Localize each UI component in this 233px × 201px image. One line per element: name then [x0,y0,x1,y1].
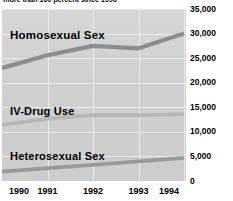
y-axis-tick-label: 10,000 [190,127,216,136]
x-axis-tick-label: 1992 [83,186,103,196]
y-axis-tick-label: 30,000 [190,29,216,38]
y-axis-tick-label: 0 [190,177,195,186]
figure-caption: more than 100 percent since 1990 [3,0,193,4]
series-label-iv-drug-use: IV-Drug Use [10,105,75,117]
x-axis-tick-label: 1993 [128,186,148,196]
x-axis-tick-label: 1990 [9,186,29,196]
series-label-heterosexual-sex: Heterosexual Sex [10,150,105,162]
series-label-homosexual-sex: Homosexual Sex [10,29,105,41]
x-axis-tick-label: 1994 [159,186,179,196]
plot-area: Homosexual Sex IV-Drug Use Heterosexual … [2,9,186,181]
y-axis-tick-label: 15,000 [190,103,216,112]
y-axis-tick-label: 5,000 [190,152,211,161]
y-axis-tick-label: 20,000 [190,78,216,87]
chart-figure: more than 100 percent since 1990 Homosex… [0,0,233,201]
y-axis-tick-label: 35,000 [190,5,216,14]
y-axis-tick-label: 25,000 [190,54,216,63]
x-axis-tick-label: 1991 [37,186,57,196]
